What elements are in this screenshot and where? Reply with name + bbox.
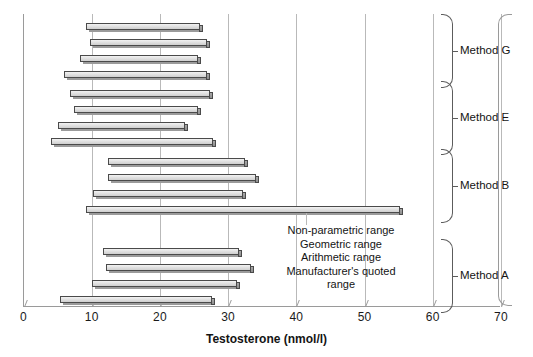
bar-method-e-1	[74, 106, 201, 115]
bar-end-cap	[236, 282, 240, 289]
bar-shadow	[63, 303, 213, 305]
bar-method-g-3	[64, 71, 210, 80]
bar-end-cap	[206, 41, 210, 48]
bar-shadow	[93, 46, 209, 48]
bar-end-cap	[209, 92, 213, 99]
legend-line-0: Non-parametric range	[256, 224, 426, 238]
bar-shadow	[73, 97, 211, 99]
bar-shadow	[77, 113, 199, 115]
bar-shadow	[54, 145, 213, 147]
bar-end-cap	[212, 140, 216, 147]
brace-nub	[452, 186, 458, 187]
bar-face	[86, 23, 200, 30]
bar-end-cap	[206, 73, 210, 80]
x-axis-title: Testosterone (nmol/l)	[0, 332, 533, 346]
bar-shadow	[109, 271, 252, 273]
bar-face	[60, 296, 212, 303]
bar-method-a-3	[60, 296, 215, 305]
x-tick-label-30: 30	[208, 310, 248, 324]
bar-shadow	[96, 197, 244, 199]
legend-line-4: range	[256, 278, 426, 292]
bar-method-e-2	[58, 122, 188, 131]
bar-end-cap	[199, 25, 203, 32]
bar-shadow	[106, 255, 241, 257]
x-tick-label-10: 10	[72, 310, 112, 324]
bar-face	[108, 174, 256, 181]
bar-method-a-0	[103, 248, 243, 257]
gridline-60	[433, 14, 434, 306]
bar-face	[74, 106, 198, 113]
bar-face	[106, 264, 251, 271]
chart-figure: 010203040506070 Method GMethod EMethod B…	[0, 0, 533, 357]
bar-method-e-3	[51, 138, 215, 147]
brace-nub	[452, 51, 458, 52]
x-tick-label-20: 20	[140, 310, 180, 324]
bar-end-cap	[255, 176, 259, 183]
bar-end-cap	[244, 160, 248, 167]
bar-method-g-2	[80, 55, 201, 64]
bar-method-b-0	[108, 158, 248, 167]
bar-method-b-3	[86, 206, 403, 215]
legend-line-1: Geometric range	[256, 238, 426, 252]
bar-end-cap	[238, 250, 242, 257]
y-axis-line	[23, 14, 24, 306]
bar-face	[103, 248, 240, 255]
bar-method-e-0	[70, 90, 213, 99]
bar-end-cap	[184, 124, 188, 131]
bar-face	[108, 158, 245, 165]
bar-face	[64, 71, 207, 78]
bar-face	[93, 190, 243, 197]
bar-method-g-1	[90, 39, 211, 48]
x-tick-label-0: 0	[4, 310, 44, 324]
bar-method-a-2	[92, 280, 240, 289]
legend-line-2: Arithmetic range	[256, 251, 426, 265]
bar-end-cap	[197, 108, 201, 115]
bar-face	[92, 280, 237, 287]
bar-end-cap	[399, 208, 403, 215]
bar-end-cap	[197, 57, 201, 64]
outer-bracket	[498, 14, 512, 306]
bar-shadow	[61, 129, 186, 131]
bar-shadow	[83, 62, 199, 64]
bar-face	[58, 122, 185, 129]
bar-shadow	[95, 287, 238, 289]
bar-shadow	[67, 78, 208, 80]
bar-face	[90, 39, 208, 46]
bar-shadow	[89, 30, 201, 32]
plot-area: 010203040506070 Method GMethod EMethod B…	[0, 0, 533, 357]
x-tick-label-70: 70	[481, 310, 521, 324]
bar-face	[80, 55, 198, 62]
bar-shadow	[111, 165, 246, 167]
legend-annotation: Non-parametric rangeGeometric rangeArith…	[256, 224, 426, 292]
bar-method-b-2	[93, 190, 246, 199]
bar-face	[70, 90, 210, 97]
bar-face	[51, 138, 212, 145]
legend-line-3: Manufacturer's quoted	[256, 265, 426, 279]
bar-method-b-1	[108, 174, 259, 183]
bar-end-cap	[250, 266, 254, 273]
bar-end-cap	[242, 192, 246, 199]
bar-end-cap	[211, 298, 215, 305]
x-axis-line	[23, 306, 500, 307]
x-tick-label-40: 40	[276, 310, 316, 324]
brace-nub	[452, 276, 458, 277]
bar-shadow	[111, 181, 257, 183]
bar-face	[86, 206, 400, 213]
x-tick-label-50: 50	[345, 310, 385, 324]
bar-method-g-0	[86, 23, 203, 32]
brace-nub	[452, 118, 458, 119]
bar-method-a-1	[106, 264, 254, 273]
bar-shadow	[89, 213, 401, 215]
